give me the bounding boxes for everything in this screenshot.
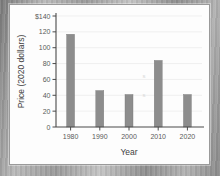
y-tick-label: 0 — [47, 124, 51, 131]
x-tick-label: 1980 — [63, 133, 79, 140]
x-tick-label: 2020 — [180, 133, 196, 140]
bar-2000 — [125, 94, 133, 127]
x-axis-title: Year — [120, 147, 137, 157]
faint-artifact-mark-2: s — [143, 92, 146, 98]
x-tick-label: 2000 — [121, 133, 137, 140]
y-tick-label: 40 — [43, 92, 51, 99]
x-tick-label: 1990 — [92, 133, 108, 140]
bar-1990 — [96, 91, 104, 127]
x-tick-label: 2010 — [150, 133, 166, 140]
y-tick-label: 120 — [39, 28, 51, 35]
y-axis-title: Price (2020 dollars) — [16, 34, 26, 108]
bar-1980 — [67, 34, 75, 127]
y-axis-ticks: 020406080100120$140 — [35, 13, 56, 131]
bar-2010 — [154, 60, 162, 127]
x-axis-ticks: 19801990200020102020 — [63, 127, 195, 140]
y-tick-label: 60 — [43, 76, 51, 83]
y-tick-label: 20 — [43, 108, 51, 115]
bar-chart: 020406080100120$140 19801990200020102020… — [10, 5, 209, 164]
bar-2020 — [183, 94, 191, 127]
bar-series — [67, 34, 192, 127]
faint-artifact-mark: s — [143, 73, 146, 79]
y-tick-label: 100 — [39, 44, 51, 51]
y-tick-label: 80 — [43, 60, 51, 67]
y-tick-label: $140 — [35, 13, 51, 20]
plot-area: 020406080100120$140 19801990200020102020… — [10, 5, 209, 164]
chart-figure-panel: 020406080100120$140 19801990200020102020… — [9, 4, 210, 165]
